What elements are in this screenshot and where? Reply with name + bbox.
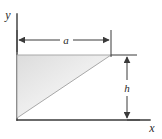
figure-container: a h y x bbox=[0, 0, 162, 139]
triangle-area-figure: a h y x bbox=[0, 0, 162, 139]
base-dimension-group: a bbox=[19, 34, 109, 46]
x-axis-label: x bbox=[148, 121, 155, 135]
height-dimension-label: h bbox=[124, 82, 130, 94]
base-dimension-label: a bbox=[63, 34, 69, 46]
triangle-group bbox=[17, 55, 111, 118]
height-dimension-group: h bbox=[124, 57, 130, 118]
y-axis-label: y bbox=[4, 8, 11, 22]
triangular-region bbox=[17, 55, 111, 118]
